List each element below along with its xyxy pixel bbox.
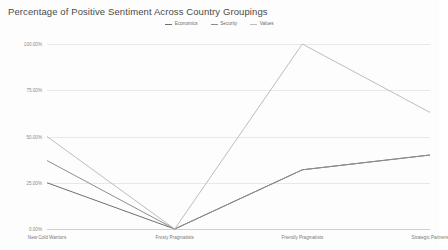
legend-swatch-icon: [165, 24, 172, 25]
x-axis-tick-label: Frosty Pragmatists: [156, 235, 194, 240]
legend-label: Economics: [175, 22, 198, 27]
plot-area: 0.00%25.00%50.00%75.00%100.00% New Cold …: [47, 44, 430, 229]
x-axis-labels: New Cold WarriorsFrosty PragmatistsFrien…: [47, 229, 430, 249]
series-line-economics: [47, 155, 430, 229]
y-axis-tick-label: 75.00%: [26, 88, 42, 93]
series-line-values: [47, 44, 430, 229]
x-axis-tick-label: Friendly Pragmatists: [281, 235, 323, 240]
legend-label: Values: [260, 22, 274, 27]
x-axis-tick-label: Strategic Partners: [412, 235, 448, 240]
y-axis-tick-label: 25.00%: [26, 180, 42, 185]
x-axis-tick-label: New Cold Warriors: [28, 235, 66, 240]
legend-label: Security: [220, 22, 237, 27]
legend-swatch-icon: [211, 24, 218, 25]
series-line-security: [47, 155, 430, 229]
legend-item-security[interactable]: Security: [211, 22, 238, 27]
chart-legend: EconomicsSecurityValues: [0, 22, 439, 27]
legend-swatch-icon: [250, 24, 257, 25]
chart-title: Percentage of Positive Sentiment Across …: [8, 6, 268, 17]
legend-item-economics[interactable]: Economics: [165, 22, 197, 27]
y-axis-tick-label: 100.00%: [24, 42, 42, 47]
y-axis-tick-label: 50.00%: [26, 134, 42, 139]
legend-item-values[interactable]: Values: [250, 22, 274, 27]
series-lines: [47, 44, 430, 229]
y-axis-tick-label: 0.00%: [29, 227, 42, 232]
